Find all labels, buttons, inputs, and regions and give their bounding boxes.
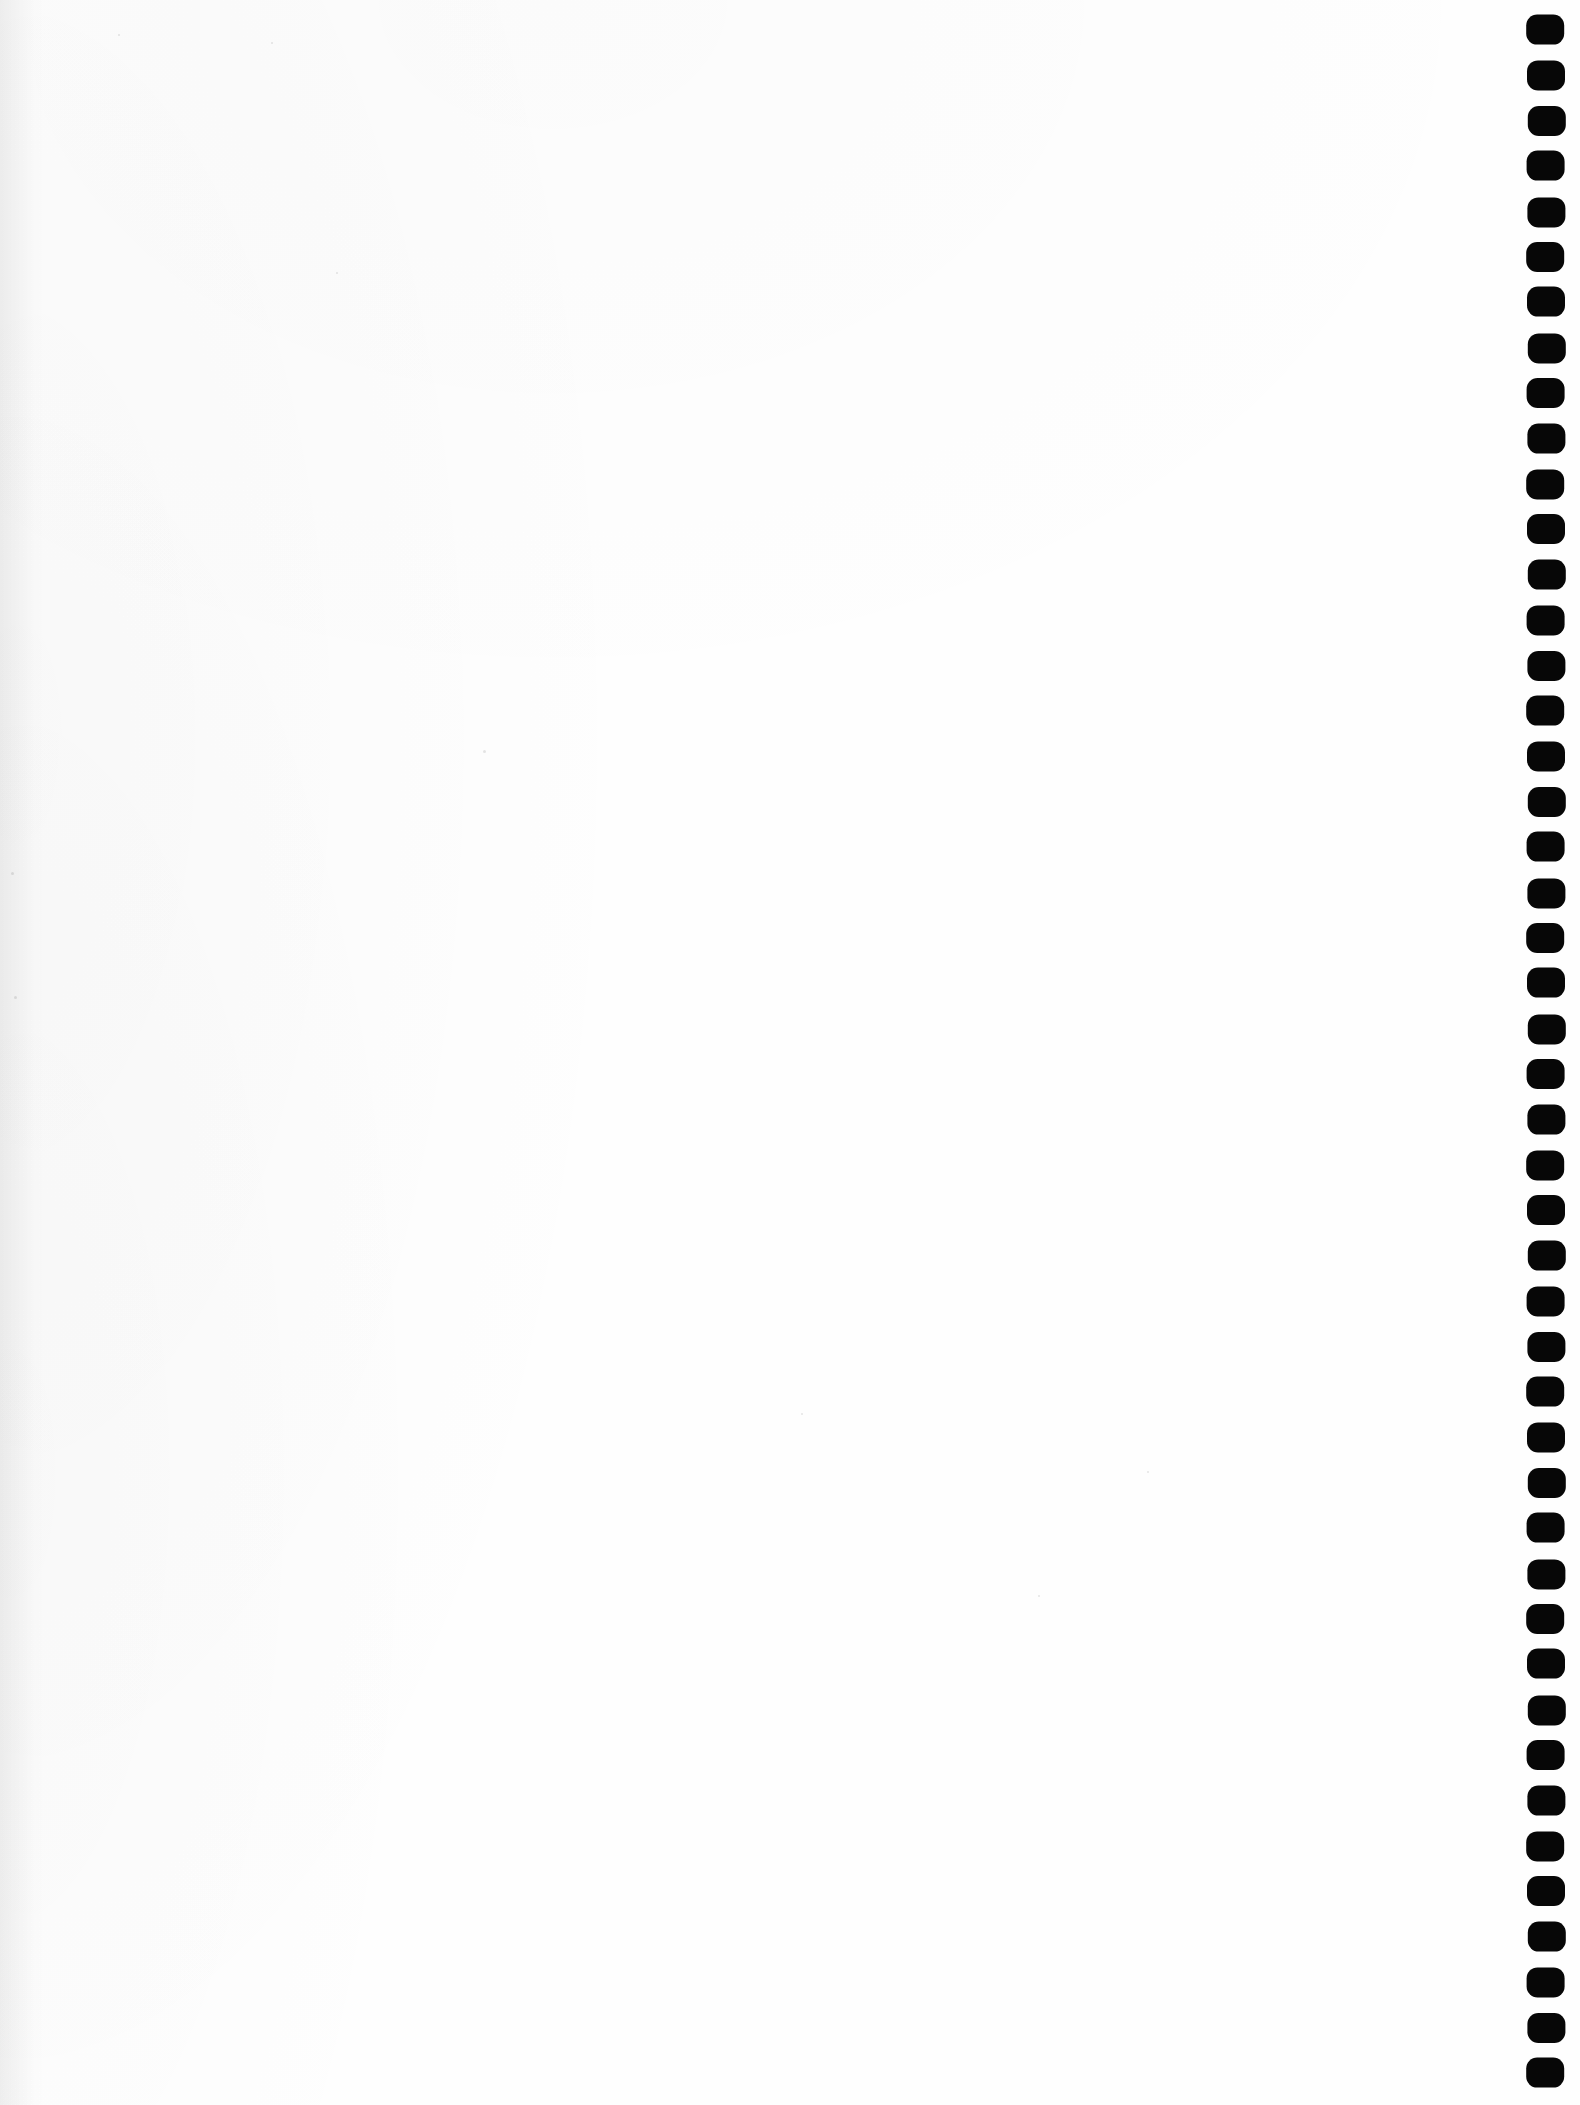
binding-mark xyxy=(1527,742,1565,772)
binding-mark xyxy=(1526,1377,1564,1407)
binding-mark xyxy=(1527,1559,1565,1589)
binding-mark xyxy=(1528,1921,1566,1951)
binding-mark xyxy=(1526,1604,1564,1634)
binding-mark xyxy=(1527,651,1565,681)
binding-mark xyxy=(1527,1332,1565,1362)
binding-mark xyxy=(1527,1876,1565,1906)
binding-mark xyxy=(1527,1287,1565,1317)
binding-mark xyxy=(1528,1240,1566,1270)
binding-mark xyxy=(1527,1649,1565,1679)
binding-mark xyxy=(1528,1014,1566,1044)
scanned-page xyxy=(0,0,1580,2105)
binding-mark xyxy=(1528,1468,1566,1498)
binding-mark xyxy=(1528,787,1566,817)
page-body xyxy=(0,0,1500,2105)
binding-mark xyxy=(1528,106,1566,136)
binding-mark xyxy=(1528,559,1566,589)
binding-mark xyxy=(1527,514,1565,544)
binding-mark xyxy=(1527,197,1565,227)
binding-mark xyxy=(1527,1423,1565,1453)
binding-mark xyxy=(1527,1513,1565,1543)
binding-mark xyxy=(1526,15,1564,45)
binding-mark xyxy=(1526,2058,1564,2088)
binding-mark xyxy=(1526,1150,1564,1180)
binding-mark xyxy=(1527,151,1565,181)
binding-mark xyxy=(1527,1740,1565,1770)
binding-mark xyxy=(1526,696,1564,726)
binding-mark xyxy=(1527,2013,1565,2043)
binding-mark xyxy=(1526,242,1564,272)
binding-mark xyxy=(1527,378,1565,408)
binding-mark xyxy=(1526,469,1564,499)
binding-mark xyxy=(1526,1831,1564,1861)
binding-mark xyxy=(1527,61,1565,91)
binding-mark xyxy=(1527,968,1565,998)
binding-mark xyxy=(1527,1785,1565,1815)
binding-mark xyxy=(1527,1968,1565,1998)
binding-mark xyxy=(1527,832,1565,862)
binding-mark xyxy=(1527,606,1565,636)
binding-mark xyxy=(1527,878,1565,908)
binding-mark xyxy=(1527,423,1565,453)
binding-mark xyxy=(1527,1059,1565,1089)
binding-mark xyxy=(1527,1104,1565,1134)
binding-mark xyxy=(1528,333,1566,363)
binding-mark xyxy=(1527,287,1565,317)
binding-mark xyxy=(1528,1695,1566,1725)
binding-mark xyxy=(1526,923,1564,953)
binding-mark xyxy=(1527,1195,1565,1225)
binding-mark-strip xyxy=(1527,0,1565,2105)
